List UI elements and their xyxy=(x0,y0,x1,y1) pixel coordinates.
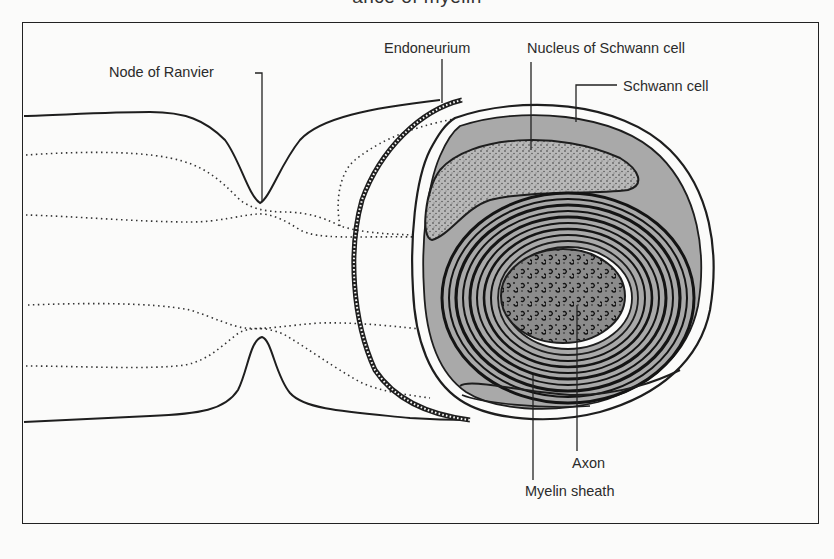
myelinated-nerve-fiber-illustration xyxy=(0,0,834,559)
label-endoneurium: Endoneurium xyxy=(384,40,470,56)
label-schwann-cell: Schwann cell xyxy=(623,78,708,94)
label-nucleus-of-schwann-cell: Nucleus of Schwann cell xyxy=(527,40,685,56)
label-axon: Axon xyxy=(572,455,605,471)
axon-body xyxy=(501,249,625,343)
leader-node-of-ranvier xyxy=(255,73,262,202)
fiber-outline xyxy=(24,100,470,422)
label-node-of-ranvier: Node of Ranvier xyxy=(109,64,214,80)
schwann-cell-cross-section xyxy=(412,105,713,419)
label-myelin-sheath: Myelin sheath xyxy=(525,483,614,499)
